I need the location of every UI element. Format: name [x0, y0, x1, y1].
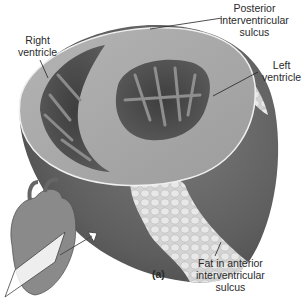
label-posterior-interventricular-sulcus: Posterior interventricular sulcus: [220, 2, 289, 38]
label-right-ventricle: Right ventricle: [18, 34, 57, 58]
label-left-ventricle: Left ventricle: [262, 59, 301, 83]
heart-section-figure: Right ventricle Posterior interventricul…: [0, 0, 307, 307]
leader-posterior-sulcus: [150, 18, 222, 29]
panel-label: (a): [152, 268, 165, 280]
label-fat-anterior-interventricular-sulcus: Fat in anterior interventricular sulcus: [196, 257, 265, 293]
